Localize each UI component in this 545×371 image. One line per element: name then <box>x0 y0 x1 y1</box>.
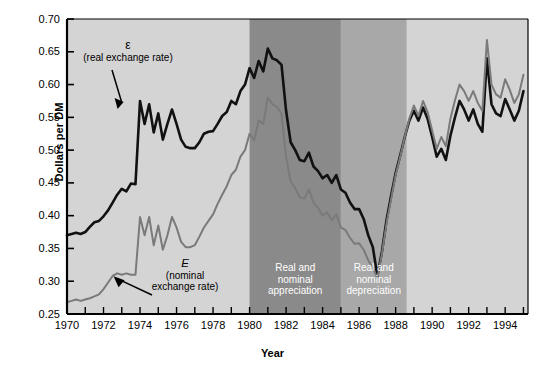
region-label-depreciation: Real andnominaldepreciation <box>314 262 434 297</box>
nominal-rate-annotation: E(nominalexchange rate) <box>120 258 250 293</box>
real-rate-annotation: ε(real exchange rate) <box>58 40 198 63</box>
